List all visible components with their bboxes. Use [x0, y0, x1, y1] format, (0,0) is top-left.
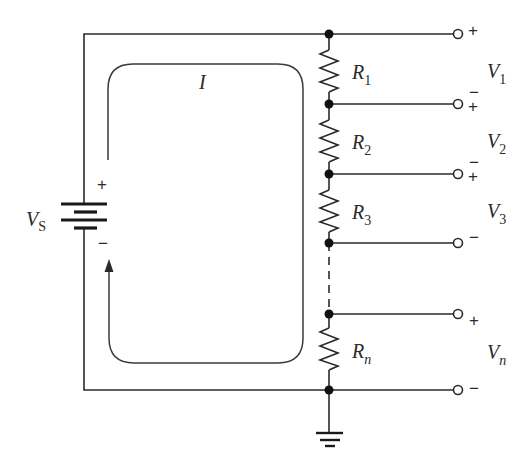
- resistor-r1-label: R1: [351, 61, 371, 88]
- node-dot: [325, 30, 334, 39]
- bottom-wire: [84, 228, 453, 390]
- terminal-circle-icon: [454, 310, 463, 319]
- terminal-sign: −: [469, 379, 479, 398]
- output-v1-label: V1: [487, 60, 506, 87]
- node-dot: [325, 310, 334, 319]
- resistor-r2-label: R2: [351, 131, 371, 158]
- battery-icon: [61, 204, 107, 228]
- current-loop-arrow: [105, 64, 304, 363]
- terminal-sign: −: [469, 228, 479, 247]
- source-minus-sign: −: [98, 234, 108, 253]
- output-terminals: [454, 30, 463, 395]
- circuit-wires: [84, 34, 458, 433]
- output-v3-label: V3: [487, 200, 506, 227]
- ground-icon: [316, 433, 343, 446]
- terminal-circle-icon: [454, 170, 463, 179]
- node-dot: [325, 239, 334, 248]
- node-dot: [325, 100, 334, 109]
- source-plus-sign: +: [97, 175, 107, 194]
- terminal-circle-icon: [454, 100, 463, 109]
- terminal-sign: +: [468, 21, 478, 40]
- top-wire: [84, 34, 458, 204]
- arrow-head-icon: [105, 259, 114, 272]
- resistor-r3-icon: [320, 190, 338, 232]
- resistor-rn-icon: [320, 328, 338, 370]
- terminal-circle-icon: [454, 386, 463, 395]
- current-label: I: [198, 71, 207, 93]
- resistor-rn-label: Rn: [351, 340, 371, 367]
- terminal-circle-icon: [454, 239, 463, 248]
- node-dot: [325, 170, 334, 179]
- resistor-r2-icon: [320, 120, 338, 162]
- terminal-sign: +: [469, 311, 479, 330]
- resistor-r1-icon: [320, 50, 338, 92]
- terminal-sign: +: [468, 167, 478, 186]
- node-dot: [325, 386, 334, 395]
- terminal-circle-icon: [454, 30, 463, 39]
- output-vn-label: Vn: [487, 341, 506, 368]
- source-label: VS: [26, 208, 46, 234]
- series-circuit-diagram: I VS + − R1 R2 R3 Rn V1 V2 V3 Vn + − + −…: [0, 0, 528, 473]
- resistor-r3-label: R3: [351, 201, 371, 228]
- output-v2-label: V2: [487, 130, 506, 157]
- terminal-sign: +: [468, 97, 478, 116]
